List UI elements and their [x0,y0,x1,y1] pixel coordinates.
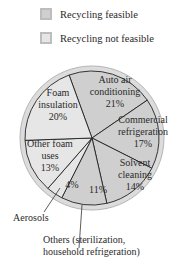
others-label-line1: Others (sterilization, [43,234,125,246]
slice-label: Other foam [27,138,73,149]
slice-label: conditioning [90,86,141,97]
slice-label: 21% [106,98,124,109]
slice-label: 20% [49,111,67,122]
slice-label: uses [41,150,58,161]
slice-label: Auto air [98,74,132,85]
slice-label: 11% [89,184,107,195]
slice-label: 4% [65,179,78,190]
slice-label: refrigeration [118,126,168,137]
slice-label: 17% [134,138,152,149]
slice-label: 14% [126,181,144,192]
slice-label: cleaning [118,169,152,180]
slice-label: Commercial [118,114,168,125]
aerosols-label: Aerosols [13,212,49,224]
others-label-line2: household refrigeration) [43,246,140,258]
slice-label: insulation [38,99,77,110]
slice-label: Solvent [120,157,151,168]
slice-label: 13% [41,162,59,173]
slice-label: Foam [47,87,70,98]
